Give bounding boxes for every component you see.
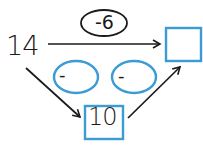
step2-operation-label: -: [118, 65, 125, 86]
top-operation-label: -6: [95, 11, 114, 33]
result-box[interactable]: [166, 28, 201, 61]
middle-value: 10: [88, 103, 117, 131]
start-value: 14: [6, 30, 38, 61]
step1-operation-label: -: [59, 64, 66, 85]
